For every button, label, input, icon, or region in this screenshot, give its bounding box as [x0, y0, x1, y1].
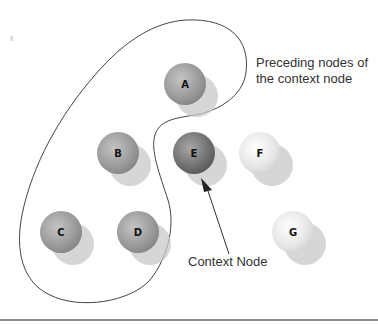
- preceding-annotation-line1: Preceding nodes of: [256, 55, 368, 70]
- node-a: A: [164, 63, 218, 117]
- diagram-canvas: ABCDEFG Preceding nodes of the context n…: [0, 0, 378, 324]
- node-label: E: [191, 148, 198, 159]
- node-c: C: [40, 211, 94, 265]
- node-e: E: [173, 132, 227, 186]
- node-label: A: [181, 79, 189, 90]
- node-label: C: [57, 227, 64, 238]
- preceding-annotation-line2: the context node: [256, 71, 352, 86]
- node-g: G: [272, 211, 326, 265]
- node-label: G: [289, 227, 297, 238]
- node-d: D: [117, 211, 171, 265]
- node-label: B: [114, 148, 122, 159]
- scan-speck: [10, 36, 13, 41]
- node-label: F: [257, 148, 264, 159]
- context-node-annotation: Context Node: [188, 254, 268, 269]
- node-f: F: [239, 132, 293, 186]
- context-node-arrow: [201, 178, 229, 254]
- node-label: D: [134, 227, 142, 238]
- node-b: B: [97, 132, 151, 186]
